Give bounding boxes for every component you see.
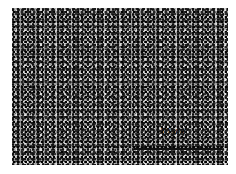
- scale-bar-label: 50 μm: [160, 126, 185, 136]
- scale-bar: [134, 148, 222, 150]
- micrograph-image: [12, 8, 228, 165]
